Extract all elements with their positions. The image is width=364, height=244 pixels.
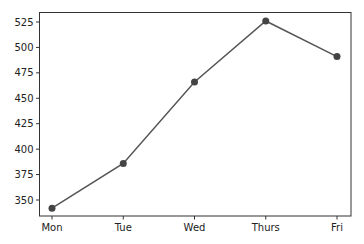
x-tick-label: Thurs bbox=[251, 222, 280, 233]
y-tick-label: 425 bbox=[14, 118, 33, 129]
data-point-marker bbox=[334, 53, 341, 60]
y-tick-label: 450 bbox=[14, 93, 33, 104]
y-tick-label: 375 bbox=[14, 169, 33, 180]
plot-frame bbox=[40, 13, 352, 217]
y-tick-label: 350 bbox=[14, 195, 33, 206]
x-axis: MonTueWedThursFri bbox=[41, 216, 343, 233]
y-tick-label: 525 bbox=[14, 17, 33, 28]
x-tick-label: Tue bbox=[114, 222, 132, 233]
series-line bbox=[52, 21, 337, 208]
x-tick-label: Fri bbox=[331, 222, 343, 233]
data-point-marker bbox=[120, 160, 127, 167]
data-point-marker bbox=[49, 205, 56, 212]
data-point-marker bbox=[262, 17, 269, 24]
y-tick-label: 500 bbox=[14, 42, 33, 53]
line-chart: 350375400425450475500525 MonTueWedThursF… bbox=[0, 0, 364, 244]
y-axis: 350375400425450475500525 bbox=[14, 17, 39, 206]
y-tick-label: 400 bbox=[14, 144, 33, 155]
y-tick-label: 475 bbox=[14, 67, 33, 78]
x-tick-label: Wed bbox=[184, 222, 206, 233]
x-tick-label: Mon bbox=[41, 222, 62, 233]
data-point-marker bbox=[191, 79, 198, 86]
